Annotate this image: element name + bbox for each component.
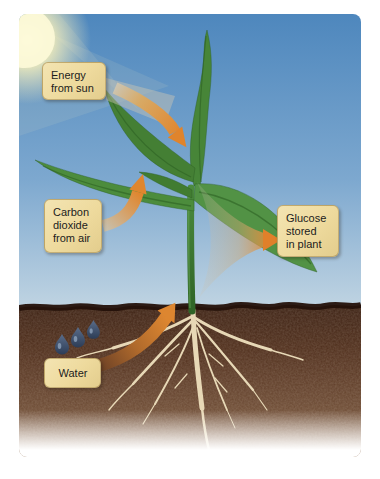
label-glucose-stored-in-plant: Glucose stored in plant bbox=[277, 205, 339, 257]
label-text-line: Water bbox=[53, 367, 93, 380]
label-text-line: from air bbox=[53, 232, 94, 245]
label-text-line: stored bbox=[286, 225, 331, 238]
bottom-fade bbox=[19, 410, 361, 457]
label-carbon-dioxide-from-air: Carbon dioxide from air bbox=[44, 199, 102, 253]
label-text-line: Carbon bbox=[53, 206, 94, 219]
label-text-line: dioxide bbox=[53, 219, 94, 232]
label-text-line: from sun bbox=[51, 82, 98, 95]
label-text-line: in plant bbox=[286, 238, 331, 251]
label-water: Water bbox=[44, 358, 101, 388]
label-text-line: Glucose bbox=[286, 212, 331, 225]
page: Energy from sun Carbon dioxide from air … bbox=[0, 0, 380, 479]
figure-photosynthesis: Energy from sun Carbon dioxide from air … bbox=[19, 14, 361, 457]
label-text-line: Energy bbox=[51, 69, 98, 82]
label-energy-from-sun: Energy from sun bbox=[42, 62, 106, 100]
